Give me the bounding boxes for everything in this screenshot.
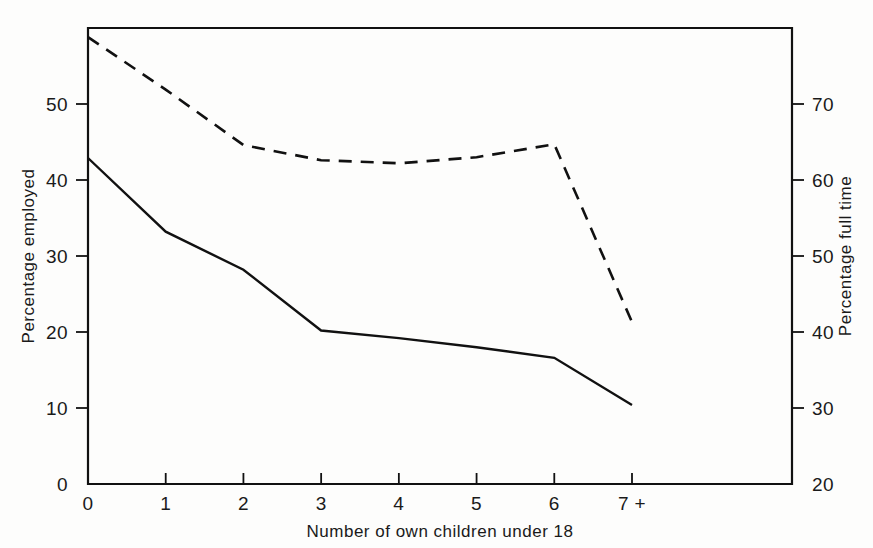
x-tick-label: 1 [160,493,171,514]
plot-frame [88,28,792,484]
series-percentage-employed-line [88,158,632,405]
axis-box [88,28,792,484]
x-axis-ticks: 01234567 + [83,473,647,514]
x-tick-label: 5 [471,493,482,514]
x-tick-label: 4 [393,493,404,514]
right-tick-label: 70 [812,94,834,115]
series-percentage-full-time-line [88,37,632,322]
x-axis-title: Number of own children under 18 [307,522,574,541]
right-tick-label: 20 [812,474,834,495]
left-tick-label: 10 [46,398,68,419]
left-tick-label: 20 [46,322,68,343]
y-axis-title: Percentage employed [19,169,38,344]
y2-axis-title: Percentage full time [836,176,855,336]
chart-figure: 01020304050 203040506070 01234567 + Perc… [0,0,873,548]
chart-canvas: 01020304050 203040506070 01234567 + Perc… [0,0,873,548]
left-tick-label: 30 [46,246,68,267]
right-tick-label: 50 [812,246,834,267]
right-tick-label: 60 [812,170,834,191]
right-tick-label: 30 [812,398,834,419]
x-tick-label: 2 [238,493,249,514]
right-tick-label: 40 [812,322,834,343]
right-axis-ticks: 203040506070 [792,94,834,495]
x-tick-label: 7 + [618,493,646,514]
left-axis-ticks: 01020304050 [46,94,88,495]
left-tick-label: 40 [46,170,68,191]
x-tick-label: 3 [316,493,327,514]
x-tick-label: 6 [549,493,560,514]
data-series-group [88,37,632,405]
left-tick-label: 0 [57,474,68,495]
x-tick-label: 0 [83,493,94,514]
left-tick-label: 50 [46,94,68,115]
